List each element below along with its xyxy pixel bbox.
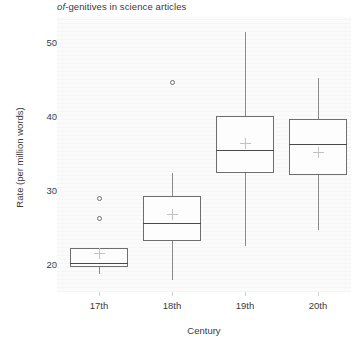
mean-marker-17th <box>94 248 105 259</box>
chart-title: of-genitives in science articles <box>57 1 186 12</box>
whisker-lower-18th <box>172 241 173 280</box>
whisker-lower-19th <box>245 173 246 246</box>
x-tick-label-19th: 19th <box>225 300 265 311</box>
x-tick-label-18th: 18th <box>152 300 192 311</box>
outlier-point-17th-2 <box>97 216 102 221</box>
x-tick-label-20th: 20th <box>298 300 338 311</box>
y-tick-mark-50 <box>52 42 56 43</box>
x-tick-mark-19th <box>245 292 246 296</box>
mean-marker-20th <box>313 147 324 158</box>
x-tick-mark-20th <box>318 292 319 296</box>
whisker-upper-18th <box>172 173 173 196</box>
outlier-point-18th-1 <box>170 80 175 85</box>
chart-title-rest: -genitives in science articles <box>65 1 186 12</box>
outlier-point-17th-1 <box>97 196 102 201</box>
median-line-17th <box>70 263 128 264</box>
y-tick-mark-20 <box>52 264 56 265</box>
y-tick-mark-30 <box>52 190 56 191</box>
y-tick-mark-40 <box>52 116 56 117</box>
x-axis-label: Century <box>57 325 351 336</box>
whisker-upper-20th <box>318 78 319 119</box>
median-line-18th <box>143 223 201 224</box>
whisker-lower-17th <box>99 267 100 274</box>
mean-marker-19th <box>240 138 251 149</box>
boxplot-figure: of-genitives in science articles Rate (p… <box>0 0 353 349</box>
whisker-lower-20th <box>318 175 319 230</box>
whisker-upper-19th <box>245 32 246 116</box>
median-line-19th <box>216 150 274 151</box>
chart-title-italic-prefix: of <box>57 1 65 12</box>
x-tick-mark-18th <box>172 292 173 296</box>
x-tick-mark-17th <box>99 292 100 296</box>
x-tick-label-17th: 17th <box>79 300 119 311</box>
y-axis-label: Rate (per million words) <box>14 63 25 253</box>
mean-marker-18th <box>167 209 178 220</box>
median-line-20th <box>289 144 347 145</box>
